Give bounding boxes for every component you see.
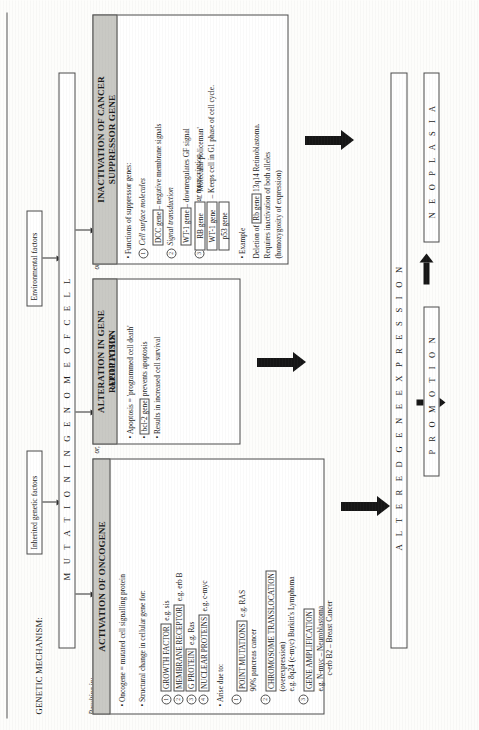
number-badge: 2 <box>166 248 176 258</box>
apoptosis-bullet-1-text: Apoptosis = 'programmed cell death' <box>125 325 134 434</box>
or-label-1: or, <box>92 446 100 453</box>
number-badge: 1 <box>161 694 171 704</box>
top-rule <box>6 12 7 718</box>
oncogene-function-row: 2 MEMBRANE RECEPTOR e.g. erb B <box>173 464 184 704</box>
fat-arrow-oncogene <box>341 502 377 511</box>
number-badge: 2 <box>173 694 183 704</box>
p53-gene-tag: p53 gene <box>218 201 229 250</box>
number-badge: 2 <box>260 694 270 704</box>
arrow-inherited-to-spine <box>42 501 56 502</box>
oncogene-function-label: NUCLEAR PROTEINS <box>198 614 209 691</box>
suppressor-group-row: 2 Signal transduction WT-1 gene– downreg… <box>165 18 192 258</box>
oncogene-cause-row: 1 POINT MUTATIONS e.g. RAS 90% pancreas … <box>230 460 257 704</box>
number-badge: 4 <box>198 694 208 704</box>
dcc-gene-tag: DCC gene <box>152 209 163 245</box>
neoplasia-label: N E O P L A S I A <box>427 102 436 218</box>
oncogene-cause-label: CHROMOSOME TRANSLOCATION <box>265 570 276 691</box>
example-line-3: (homozygosity of expression) <box>274 18 282 258</box>
arrow-spine-to-apoptosis <box>75 411 90 412</box>
suppressor-intro-text: Functions of suppressor genes: <box>123 162 132 253</box>
suppressor-group-desc: – downregulates GF signal <box>181 128 190 207</box>
oncogene-cause-label: GENE AMPLIFICATION <box>303 608 314 691</box>
oncogene-function-row: 4 NUCLEAR PROTEINS e.g. c-myc <box>198 464 209 704</box>
oncogene-function-example: e.g. c-myc <box>199 580 208 611</box>
oncogene-function-label: G PROTEIN <box>185 648 196 691</box>
promotion-label: P R O M O T I O N <box>427 334 436 454</box>
suppressor-gene-stack: RB gene WT-1 gene p53 gene <box>194 201 229 250</box>
number-badge: 3 <box>298 694 308 704</box>
oncogene-function-label: GROWTH FACTOR <box>160 623 171 691</box>
bullet-dot-a2: • <box>139 434 148 438</box>
gene-note-2: – Keeps cell in G1 phase of cell cycle. <box>207 78 215 198</box>
fat-arrow-suppressor <box>305 136 341 145</box>
example-label: • Example <box>238 227 246 258</box>
apoptosis-bullet-3-text: Results in increased cell survival <box>152 336 161 433</box>
suppressor-group-desc: – negative membrane signals <box>153 123 162 209</box>
example-prefix: Deletion of <box>251 225 260 258</box>
oncogene-bullet-2: • Structural change in cellular gene for… <box>138 470 146 706</box>
oncogene-cause-list: 1 POINT MUTATIONS e.g. RAS 90% pancreas … <box>230 460 333 704</box>
example-line-1: Deletion of Rb gene 13q14 Retinoblastoma… <box>251 18 261 258</box>
arrow-spine-to-oncogene <box>75 593 90 594</box>
oncogene-cause-example: e.g. RAS <box>237 590 246 617</box>
oncogene-function-example: e.g. erb B <box>174 572 183 601</box>
oncogene-bullet-2-text: Structural change in cellular gene for: <box>137 590 146 702</box>
wt1-gene-tag: WT-1 gene <box>180 207 191 245</box>
oncogene-function-row: 3 G PROTEIN e.g. Ras <box>185 464 196 704</box>
suppressor-title-line1: INACTIVATION OF CANCER <box>95 14 106 264</box>
fat-arrow-apoptosis <box>257 358 293 367</box>
oncogene-function-row: 1 GROWTH FACTOR e.g. sis <box>160 464 171 704</box>
oncogene-title: ACTIVATION OF ONCOGENE <box>96 458 107 714</box>
suppressor-intro: • Functions of suppressor genes: <box>124 162 132 258</box>
environmental-factors-label: Environmental factors <box>30 232 39 300</box>
arrow-spine-to-suppressor <box>75 229 90 230</box>
arise-due-to-text: Arise due to: <box>215 663 224 701</box>
gene-note-1: – 'Molecular policeman' <box>196 127 204 198</box>
apoptosis-bullet-2: • bcl-2 gene prevents apoptosis <box>139 282 149 438</box>
bcl2-gene-tag: bcl-2 gene <box>139 398 149 434</box>
oncogene-cause-note: 90% pancreas cancer <box>248 590 257 692</box>
oncogene-function-example: e.g. sis <box>161 600 170 620</box>
example-suffix: 13q14 Retinoblastoma. <box>251 123 260 192</box>
oncogene-function-label: MEMBRANE RECEPTOR <box>173 604 184 691</box>
apoptosis-bullet-3: • Results in increased cell survival <box>153 282 161 438</box>
suppressor-group-italic: Signal transduction <box>165 128 174 245</box>
fat-arrow-to-neoplasia <box>423 262 429 284</box>
suppressor-title-line2: SUPPRESSOR GENE <box>106 14 117 264</box>
arrow-environmental-to-spine <box>42 257 56 258</box>
oncogene-bullet-1: • Oncogene = mutated cell signalling pro… <box>118 470 126 706</box>
oncogene-cause-row: 3 GENE AMPLIFICATION e.g. N-myc – Neurob… <box>297 460 333 704</box>
diagram-canvas: GENETIC MECHANISM: Inherited genetic fac… <box>0 0 479 730</box>
oncogene-cause-row: 2 CHROMOSOME TRANSLOCATION (overexpressi… <box>259 460 295 704</box>
inherited-factors-label: Inherited genetic factors <box>30 475 39 549</box>
altered-gene-expression-label: A L T E R E D G E N E E X P R E S S I O … <box>394 263 404 550</box>
wt1-gene-tag-2: WT-1 gene <box>206 201 217 250</box>
suppressor-group-italic: Cell surface molecules <box>137 123 146 245</box>
oncogene-cause-label: POINT MUTATIONS <box>236 620 247 691</box>
rb-gene-tag: RB gene <box>194 201 205 250</box>
apoptosis-bullet-2-suffix: prevents apoptosis <box>139 341 148 398</box>
oncogene-bullet-1-text: Oncogene = mutated cell signalling prote… <box>117 574 126 702</box>
example-label-text: Example <box>237 227 246 253</box>
rb-gene-tag-example: Rb gene <box>251 193 261 222</box>
oncogene-function-example: e.g. Ras <box>186 621 195 645</box>
oncogene-cause-example: (overexpression) <box>277 570 286 691</box>
arise-due-to-label: • Arise due to: <box>216 663 224 706</box>
oncogene-cause-example: e.g. N-myc – Neuroblastoma <box>315 600 324 691</box>
apoptosis-bullet-1: • Apoptosis = 'programmed cell death' <box>126 282 134 438</box>
oncogene-function-list: 1 GROWTH FACTOR e.g. sis 2 MEMBRANE RECE… <box>160 464 209 704</box>
rotated-page: GENETIC MECHANISM: Inherited genetic fac… <box>0 0 479 730</box>
oncogene-cause-note: c-erb B2 – Breast Cancer <box>324 600 333 691</box>
suppressor-group-row: 1 Cell surface molecules DCC gene– negat… <box>137 18 164 258</box>
number-badge: 1 <box>231 694 241 704</box>
example-line-2: Requires inactivation of both alleles <box>263 18 271 258</box>
apoptosis-title-line2: APOPTOSIS <box>106 278 117 444</box>
mutation-spine-label: M U T A T I O N I N G E N O M E O F C E … <box>62 275 72 580</box>
number-badge: 1 <box>138 248 148 258</box>
genetic-mechanism-label: GENETIC MECHANISM: <box>34 617 44 714</box>
number-badge: 3 <box>186 694 196 704</box>
oncogene-cause-note: e.g. 8q24 (c-myc) Burkitt's Lymphoma <box>286 570 295 691</box>
